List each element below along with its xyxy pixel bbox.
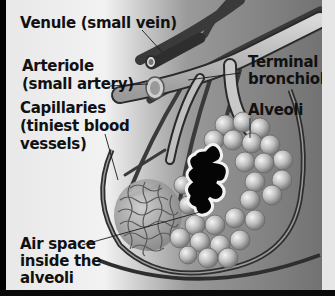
label-terminal: Terminal [248,54,318,71]
diagram-panel: Venule (small vein) Arteriole (small art… [6,0,335,290]
air-space-cutaway [186,144,227,215]
label-arteriole: Arteriole [22,58,94,75]
label-capillaries: Capillaries [20,100,106,117]
diagram-image: Venule (small vein) Arteriole (small art… [0,0,335,296]
label-airspace: Air space [20,236,96,253]
label-airspace-desc-2: alveoli [20,270,74,287]
label-capillaries-desc-1: (tiniest blood [20,118,130,135]
label-airspace-desc-1: inside the [20,253,101,270]
label-capillaries-desc-2: vessels) [20,136,87,153]
label-alveoli: Alveoli [248,102,303,119]
bottom-border [0,290,335,296]
label-arteriole-desc: (small artery) [22,76,134,93]
capillary-network [114,179,182,256]
arteriole [146,77,164,99]
label-venule: Venule (small vein) [20,15,177,32]
right-edge-strip [322,0,335,290]
